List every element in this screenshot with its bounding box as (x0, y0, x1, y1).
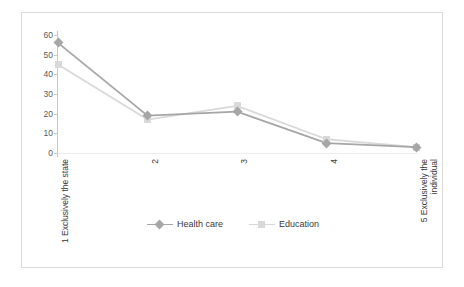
series-lines (58, 35, 416, 153)
chart-legend: Health careEducation (22, 219, 444, 229)
y-tick-mark (54, 35, 57, 36)
x-axis-zero-line (58, 153, 417, 154)
y-tick-mark (54, 55, 57, 56)
legend-swatch-icon (147, 220, 173, 229)
series-line-health-care (58, 43, 416, 147)
y-tick-mark (54, 74, 57, 75)
chart-figure: 0102030405060 1 Exclusively the state234… (21, 12, 443, 268)
legend-swatch-icon (249, 220, 275, 229)
y-tick-label: 50 (27, 50, 53, 59)
data-point-marker (55, 61, 62, 68)
y-axis-tick-labels: 0102030405060 (22, 13, 53, 269)
x-category-label: 5 Exclusively the individual (420, 159, 440, 222)
y-tick-mark (54, 114, 57, 115)
x-category-label: 1 Exclusively the state (61, 159, 71, 243)
y-tick-label: 30 (27, 90, 53, 99)
y-tick-mark (54, 153, 57, 154)
y-tick-label: 0 (27, 149, 53, 158)
y-tick-label: 20 (27, 109, 53, 118)
y-tick-label: 40 (27, 70, 53, 79)
legend-label: Health care (177, 219, 223, 229)
y-tick-mark (54, 133, 57, 134)
y-tick-mark (54, 94, 57, 95)
legend-entry-health-care[interactable]: Health care (147, 219, 223, 229)
x-category-label: 3 (240, 159, 250, 164)
y-tick-label: 60 (27, 31, 53, 40)
x-category-label: 2 (151, 159, 161, 164)
plot-area (58, 35, 416, 153)
legend-entry-education[interactable]: Education (249, 219, 319, 229)
legend-label: Education (279, 219, 319, 229)
y-tick-label: 10 (27, 129, 53, 138)
x-category-label: 4 (330, 159, 340, 164)
